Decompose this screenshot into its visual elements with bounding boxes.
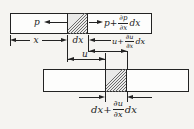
dx-displaced-suffix: dx [125,105,137,115]
top-element-hatch [67,13,88,34]
pressure-right-arrowhead-icon [97,20,103,24]
dx-displaced-numerator: ∂u [113,100,124,110]
dx-displaced-label: dx+ ∂u ∂x dx [82,101,146,118]
u-displaced-suffix: dx [135,38,145,46]
u-displaced-leader-line [95,40,111,41]
x-dim-arrowhead-right-icon [61,38,67,42]
x-dim-line-right [42,40,61,41]
extension-line-displaced-left [105,53,106,69]
dx-displaced-prefix: dx+ [91,105,111,115]
u-displaced-denominator: ∂x [126,42,133,50]
pressure-left-label: p [31,16,43,29]
bottom-dim-arrowhead-left-icon [99,95,105,99]
x-dim-line-left [16,40,30,41]
bottom-dim-line-right [133,97,152,98]
bottom-dim-line-left [79,97,99,98]
x-dimension-label: x [30,34,42,46]
dx-displaced-denominator: ∂x [114,110,123,119]
pressure-right-suffix: dx [129,19,140,28]
u-displaced-prefix: u+ [112,38,124,46]
pressure-right-numerator: ∂p [118,15,128,24]
dx-displaced-fraction: ∂u ∂x [113,100,124,119]
extension-line-displaced-right [127,51,128,69]
dx-dimension-label: dx [69,34,87,46]
u-displaced-numerator: ∂u [125,34,135,43]
u-displaced-label: u+ ∂u ∂x dx [112,35,145,48]
pressure-left-arrow-line [50,22,67,23]
u-displaced-fraction: ∂u ∂x [125,34,135,50]
pressure-right-label: p+ ∂p ∂x dx [104,13,140,33]
pressure-right-denominator: ∂x [120,24,128,32]
u-dimension-label: u [79,50,91,59]
pressure-right-prefix: p+ [104,19,117,28]
pressure-right-fraction: ∂p ∂x [118,15,128,32]
bottom-element-hatch [105,69,127,92]
figure-canvas: p p+ ∂p ∂x dx x dx u+ ∂u ∂x dx [0,0,194,129]
